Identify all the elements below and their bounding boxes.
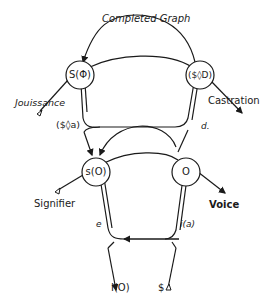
subject-start-triangle	[166, 284, 171, 290]
label-image: i(a)	[180, 220, 195, 229]
node-label-s-o: s(O)	[81, 167, 111, 177]
label-voice: Voice	[209, 200, 239, 210]
node-label-drive: ($◊D)	[185, 70, 215, 80]
label-signifier: Signifier	[34, 199, 75, 209]
label-desire: d.	[201, 122, 210, 131]
lower-outer-arc	[100, 126, 176, 155]
diagram-title: Completed Graph	[102, 14, 190, 24]
node-label-s-barred-phi: S(Φ)	[65, 70, 95, 80]
graph-of-desire	[0, 0, 277, 305]
label-castration: Castration	[208, 96, 260, 106]
jouissance-end-triangle	[37, 110, 42, 116]
label-ego: e	[96, 220, 102, 229]
label-ego-ideal: I(O)	[111, 283, 130, 293]
signifier-end-triangle	[55, 188, 60, 194]
lower-inner-arc	[104, 153, 178, 163]
upper-inner-arc	[90, 56, 192, 67]
label-jouissance: Jouissance	[15, 98, 65, 108]
label-subject: $	[158, 283, 164, 293]
node-label-o: O	[171, 167, 201, 177]
label-fantasy: ($◊a)	[56, 120, 80, 130]
